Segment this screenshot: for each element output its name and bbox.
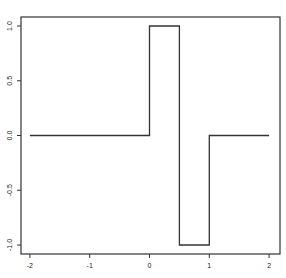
y-axis: -1.0-0.50.00.51.0 bbox=[6, 21, 21, 251]
chart: -2-1012 -1.0-0.50.00.51.0 bbox=[0, 0, 286, 278]
step-function-line bbox=[30, 26, 269, 245]
y-tick-label: 0.0 bbox=[6, 131, 13, 141]
x-axis: -2-1012 bbox=[27, 254, 271, 269]
y-tick-label: -0.5 bbox=[6, 184, 13, 196]
x-tick-label: 2 bbox=[267, 262, 271, 269]
x-tick-label: -1 bbox=[87, 262, 93, 269]
y-tick-label: 0.5 bbox=[6, 76, 13, 86]
data-series bbox=[30, 26, 269, 245]
x-tick-label: 0 bbox=[148, 262, 152, 269]
x-tick-label: 1 bbox=[207, 262, 211, 269]
y-tick-label: 1.0 bbox=[6, 21, 13, 31]
x-tick-label: -2 bbox=[27, 262, 33, 269]
y-tick-label: -1.0 bbox=[6, 239, 13, 251]
